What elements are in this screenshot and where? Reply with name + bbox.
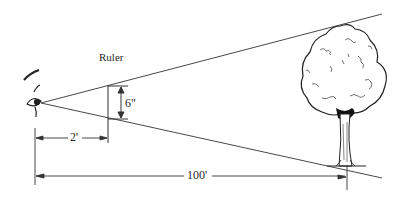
- ruler-height-label: 6": [124, 97, 137, 109]
- tree-icon: [301, 25, 386, 166]
- diagram-canvas: [0, 0, 419, 201]
- ruler-label: Ruler: [98, 52, 124, 63]
- ruler: [108, 85, 128, 143]
- eye-to-ruler-label: 2': [69, 131, 79, 143]
- eye-to-tree-label: 100': [186, 169, 208, 181]
- eye-icon: [24, 70, 41, 117]
